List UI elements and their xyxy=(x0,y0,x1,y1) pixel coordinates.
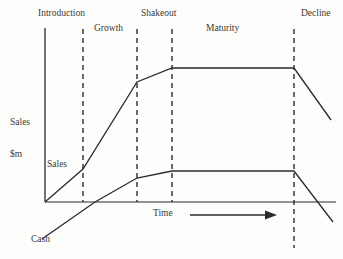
cash-curve-label: Cash xyxy=(31,234,50,245)
product-lifecycle-diagram: Introduction Growth Shakeout Maturity De… xyxy=(0,0,343,259)
sales-curve xyxy=(45,68,331,202)
stage-label-introduction: Introduction xyxy=(38,8,85,19)
y-axis-label-line2: $m xyxy=(10,149,30,160)
lifecycle-chart-canvas xyxy=(0,0,343,259)
y-axis-label-line1: Sales xyxy=(10,117,30,128)
x-axis-label: Time xyxy=(153,208,173,219)
right-arrow-icon xyxy=(190,211,277,220)
stage-label-maturity: Maturity xyxy=(206,23,239,34)
stage-label-shakeout: Shakeout xyxy=(141,8,176,19)
sales-curve-label: Sales xyxy=(47,159,67,170)
stage-label-decline: Decline xyxy=(301,8,331,19)
y-axis-label: Sales $m xyxy=(10,96,30,181)
stage-label-growth: Growth xyxy=(94,23,123,34)
cash-curve xyxy=(42,171,333,239)
